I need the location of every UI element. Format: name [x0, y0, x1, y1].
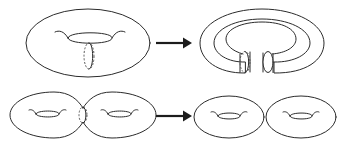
arrow-top-head [183, 38, 192, 49]
shape-cut-open-torus [200, 9, 324, 73]
cut-torus-left-end-front [245, 52, 249, 73]
separate-torus-2 [266, 96, 336, 138]
cut-torus-hole-rim [226, 22, 296, 54]
cut-torus-outer-outline [200, 9, 324, 73]
separate-torus-1-hole [218, 113, 240, 119]
shape-torus [26, 9, 150, 77]
separate-torus-2-hole [290, 113, 312, 119]
genus-two-right-hole [108, 111, 131, 117]
arrow-bottom [156, 111, 192, 122]
topology-figure: Cutting surfaces along a circle [0, 0, 338, 151]
genus-two-outer-outline [10, 92, 156, 138]
torus-hole-outline [68, 33, 112, 44]
arrow-top [156, 38, 192, 49]
shape-two-separate-tori [194, 96, 336, 138]
shape-genus-two-surface [10, 92, 156, 138]
cut-torus-right-end-ellipse [263, 52, 273, 73]
genus-two-left-hole [36, 111, 59, 117]
separate-torus-1 [194, 96, 264, 138]
figure-canvas: Cutting surfaces along a circle [0, 0, 338, 151]
arrow-bottom-head [183, 111, 192, 122]
